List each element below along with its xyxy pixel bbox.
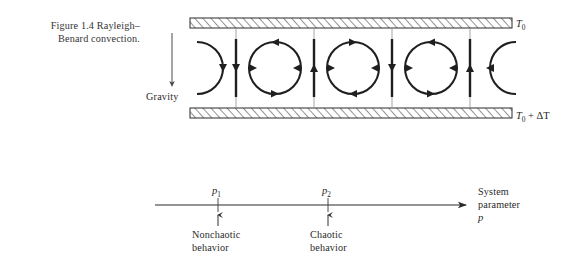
bottom-plate-temperature-label: T0 + ΔT [516, 110, 550, 124]
axis-caption-line-2: parameter [478, 199, 520, 212]
behavior-label-chaotic: Chaotic behavior [310, 229, 347, 254]
tick-label-p1-subscript: 1 [217, 191, 221, 199]
tick-label-p1: p1 [212, 185, 221, 199]
figure-1-4-caption-line-1: Figure 1.4 Rayleigh– [14, 19, 140, 32]
figure-1-4: Figure 1.4 Rayleigh– Benard convection. [0, 0, 581, 140]
gravity-label: Gravity [146, 91, 179, 102]
tick-label-p2-subscript: 2 [327, 191, 331, 199]
bottom-plate-temperature-delta: + ΔT [525, 110, 549, 121]
top-plate-temperature-label: T0 [516, 18, 525, 32]
behavior-label-nonchaotic-line-1: Nonchaotic [192, 229, 240, 242]
figure-1-4-caption-line-2: Benard convection. [14, 32, 140, 45]
top-plate-temperature-subscript: 0 [522, 23, 526, 32]
convection-cell-2-arrowheads [327, 39, 379, 98]
figure-1-4-caption: Figure 1.4 Rayleigh– Benard convection. [14, 19, 140, 46]
left-partial-arc-arrowhead [219, 64, 227, 72]
behavior-label-nonchaotic-line-2: behavior [192, 242, 240, 255]
axis-caption-line-1: System [478, 186, 520, 199]
axis-caption: System parameter p [478, 186, 520, 224]
bottom-plate [190, 108, 512, 118]
behavior-label-chaotic-line-1: Chaotic [310, 229, 347, 242]
figure-1-5: Figure 1.5 Schematic illustration of the… [0, 140, 581, 273]
tick-label-p2: p2 [322, 185, 331, 199]
behavior-label-chaotic-line-2: behavior [310, 242, 347, 255]
convection-cell-3-arrowheads [405, 39, 457, 98]
vertical-flow-bar-arrowheads [232, 64, 474, 72]
left-partial-convection-arc [197, 42, 223, 94]
figure-page: Figure 1.4 Rayleigh– Benard convection. [0, 0, 581, 273]
vertical-flow-bars [236, 39, 470, 97]
top-plate [190, 18, 512, 28]
convection-cell-1-arrowheads [249, 39, 301, 98]
behavior-label-nonchaotic: Nonchaotic behavior [192, 229, 240, 254]
axis-caption-line-3: p [478, 212, 520, 225]
